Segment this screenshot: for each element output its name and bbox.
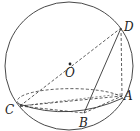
- label-C: C: [5, 103, 14, 117]
- label-D: D: [123, 20, 134, 34]
- center-point-O: [69, 63, 72, 66]
- sphere-diagram: O D A B C: [0, 0, 140, 131]
- label-A: A: [123, 89, 133, 103]
- segment-DA: [121, 28, 122, 96]
- label-O: O: [65, 66, 75, 80]
- segment-DB: [84, 28, 121, 113]
- section-circle-front: [19, 98, 123, 112]
- section-circle-back: [17, 89, 123, 104]
- segment-BA: [84, 96, 122, 113]
- diagram-canvas: O D A B C: [0, 0, 140, 131]
- label-B: B: [78, 116, 88, 130]
